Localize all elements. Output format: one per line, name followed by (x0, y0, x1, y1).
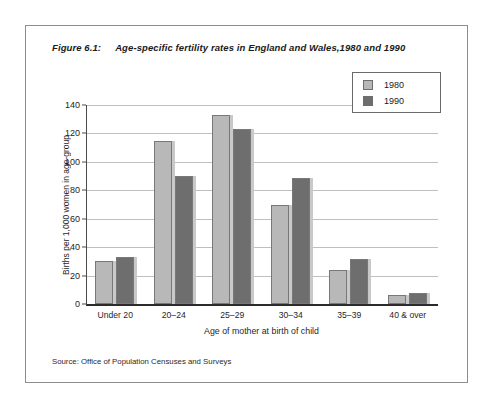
y-tick-label: 120 (54, 128, 80, 138)
legend-item-1980: 1980 (363, 78, 404, 92)
bar-shadow-side (134, 260, 137, 304)
x-tick-label: Under 20 (98, 310, 133, 320)
bar-shadow-side (310, 181, 313, 305)
source-note: Source: Office of Population Censuses an… (52, 357, 231, 366)
y-tick-label: 80 (54, 185, 80, 195)
y-tick-label: 0 (54, 299, 80, 309)
bar-1990 (350, 259, 371, 304)
bar-body (154, 141, 172, 304)
x-tick-label: 25–29 (220, 310, 244, 320)
bar-body (116, 257, 134, 304)
bar-body (350, 259, 368, 304)
bar-1990 (292, 178, 313, 305)
y-tick-mark (82, 105, 86, 106)
x-axis-title: Age of mother at birth of child (86, 326, 437, 336)
bar-1990 (175, 176, 196, 304)
y-tick-mark (82, 247, 86, 248)
bar-body (212, 115, 230, 304)
bar-body (175, 176, 193, 304)
bar-group (146, 105, 205, 304)
bar-shadow-side (427, 296, 430, 304)
y-tick-label: 60 (54, 214, 80, 224)
legend-item-1990: 1990 (363, 94, 404, 108)
x-tick-label: 30–34 (279, 310, 303, 320)
bar-1980 (95, 261, 116, 304)
y-tick-label: 140 (54, 100, 80, 110)
x-tick-label: 40 & over (389, 310, 426, 320)
bar-1980 (329, 270, 350, 304)
bar-1980 (154, 141, 175, 304)
legend-swatch-1990 (363, 96, 373, 106)
bar-body (388, 295, 406, 304)
y-tick-label: 20 (54, 271, 80, 281)
bar-body (329, 270, 347, 304)
bar-1990 (116, 257, 137, 304)
bar-group (263, 105, 322, 304)
y-tick-label: 100 (54, 157, 80, 167)
bar-shadow-side (251, 132, 254, 304)
bar-group (87, 105, 146, 304)
y-tick-mark (82, 218, 86, 219)
bar-group (380, 105, 439, 304)
bar-1980 (388, 295, 409, 304)
bar-body (292, 178, 310, 305)
bar-body (95, 261, 113, 304)
legend-label-1980: 1980 (384, 80, 404, 90)
bar-1990 (409, 293, 430, 304)
bar-group (204, 105, 263, 304)
plot-area (86, 105, 438, 306)
y-axis-title-text: Births per 1,000 women in age-group (61, 135, 71, 275)
figure-frame: Figure 6.1:Age-specific fertility rates … (25, 25, 468, 383)
y-tick-mark (82, 161, 86, 162)
bar-1980 (212, 115, 233, 304)
y-tick-mark (82, 133, 86, 134)
bar-shadow-side (193, 179, 196, 304)
legend-swatch-1980 (363, 80, 373, 90)
chart-legend: 1980 1990 (352, 72, 441, 113)
bar-group (321, 105, 380, 304)
x-tick-label: 35–39 (337, 310, 361, 320)
y-tick-mark (82, 304, 86, 305)
bar-body (233, 129, 251, 304)
bar-1980 (271, 205, 292, 305)
bar-1990 (233, 129, 254, 304)
legend-label-1990: 1990 (384, 96, 404, 106)
bar-body (409, 293, 427, 304)
y-tick-mark (82, 275, 86, 276)
y-tick-mark (82, 190, 86, 191)
bar-body (271, 205, 289, 305)
y-tick-label: 40 (54, 242, 80, 252)
bar-shadow-side (368, 262, 371, 304)
x-tick-label: 20–24 (162, 310, 186, 320)
